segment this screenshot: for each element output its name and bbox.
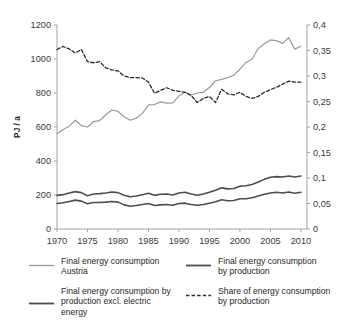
svg-text:1200: 1200 — [31, 20, 51, 30]
legend-item-label: Final energy consumption by production — [218, 256, 316, 277]
legend-item-label: Final energy consumption Austria — [61, 256, 159, 277]
legend-swatch-line-icon — [28, 298, 55, 309]
legend-item-final-energy-consumption-austria: Final energy consumption Austria — [4, 256, 178, 277]
legend-item-final-energy-consumption-by-production-excl-electric-energy: Final energy consumption by production e… — [4, 286, 178, 317]
svg-text:600: 600 — [36, 122, 51, 132]
line-chart-svg: 020040060080010001200 00,050,10,150,20,2… — [0, 0, 343, 250]
svg-text:1970: 1970 — [47, 236, 67, 246]
svg-text:0,4: 0,4 — [313, 20, 326, 30]
svg-text:0: 0 — [313, 224, 318, 234]
svg-text:0,15: 0,15 — [313, 148, 331, 158]
chart-plot-area: 020040060080010001200 00,050,10,150,20,2… — [0, 0, 343, 250]
svg-text:0,2: 0,2 — [313, 122, 326, 132]
y-axis-left-title: PJ / a — [12, 116, 22, 138]
svg-text:1000: 1000 — [31, 54, 51, 64]
legend-row: Final energy consumption by production e… — [4, 286, 339, 317]
legend-item-share-of-energy-consumption-by-production: Share of energy consumption by productio… — [178, 286, 339, 317]
legend-swatch-line-icon — [185, 260, 212, 271]
svg-text:0,05: 0,05 — [313, 199, 331, 209]
svg-text:2000: 2000 — [230, 236, 250, 246]
legend-swatch-line-icon — [28, 260, 55, 271]
svg-text:1995: 1995 — [199, 236, 219, 246]
svg-text:800: 800 — [36, 88, 51, 98]
svg-text:200: 200 — [36, 190, 51, 200]
svg-text:0,3: 0,3 — [313, 71, 326, 81]
legend-item-label: Share of energy consumption by productio… — [218, 286, 330, 307]
svg-text:2005: 2005 — [260, 236, 280, 246]
svg-text:1985: 1985 — [138, 236, 158, 246]
y-axis-right: 00,050,10,150,20,250,30,350,4 — [307, 20, 331, 234]
legend-swatch-dashed-line-icon — [185, 290, 212, 301]
series-line-0 — [57, 38, 301, 134]
series-line-3 — [57, 46, 301, 102]
x-axis: 197019751980198519901995200020052010 — [47, 229, 311, 246]
svg-text:0,35: 0,35 — [313, 46, 331, 56]
legend-item-final-energy-consumption-by-production: Final energy consumption by production — [178, 256, 339, 277]
svg-text:2010: 2010 — [291, 236, 311, 246]
svg-text:400: 400 — [36, 156, 51, 166]
chart-legend: Final energy consumption Austria Final e… — [0, 252, 343, 336]
svg-text:1990: 1990 — [169, 236, 189, 246]
y-axis-left: 020040060080010001200 — [31, 20, 57, 234]
legend-item-label: Final energy consumption by production e… — [61, 286, 171, 317]
svg-text:1980: 1980 — [108, 236, 128, 246]
chart-figure: 020040060080010001200 00,050,10,150,20,2… — [0, 0, 343, 336]
svg-text:0: 0 — [46, 224, 51, 234]
svg-text:1975: 1975 — [77, 236, 97, 246]
legend-row: Final energy consumption Austria Final e… — [4, 256, 339, 277]
svg-text:0,25: 0,25 — [313, 97, 331, 107]
svg-text:0,1: 0,1 — [313, 173, 326, 183]
data-series-group — [57, 38, 301, 206]
